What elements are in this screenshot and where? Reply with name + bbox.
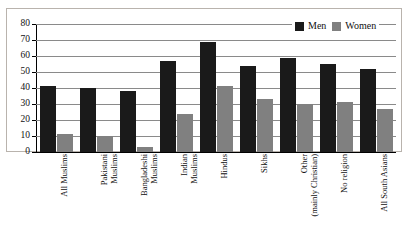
legend-item-women: Women bbox=[332, 21, 376, 31]
y-tick-label: 50 bbox=[4, 67, 30, 77]
x-tick-label: PakistaniMuslims bbox=[100, 154, 119, 246]
y-tick-mark bbox=[32, 40, 36, 41]
bar-women bbox=[137, 147, 153, 152]
bar-women bbox=[377, 109, 393, 152]
y-tick-label: 10 bbox=[4, 131, 30, 141]
x-tick-label: Sikhs bbox=[260, 154, 270, 246]
x-tick-label: Hindus bbox=[220, 154, 230, 246]
bar-women bbox=[257, 99, 273, 152]
x-tick-label: Other(mainly Christian) bbox=[300, 154, 319, 246]
bar-men bbox=[240, 66, 256, 152]
bar-men bbox=[320, 64, 336, 152]
y-tick-label: 60 bbox=[4, 51, 30, 61]
y-tick-mark bbox=[32, 56, 36, 57]
y-tick-label: 30 bbox=[4, 99, 30, 109]
bar-men bbox=[200, 42, 216, 152]
gridline bbox=[36, 56, 396, 57]
legend-item-men: Men bbox=[295, 21, 326, 31]
bar-women bbox=[217, 86, 233, 152]
y-axis-labels: 01020304050607080 bbox=[0, 24, 30, 152]
legend-label-men: Men bbox=[308, 21, 326, 31]
y-tick-mark bbox=[32, 136, 36, 137]
bar-women bbox=[177, 114, 193, 152]
y-tick-label: 70 bbox=[4, 35, 30, 45]
y-tick-mark bbox=[32, 88, 36, 89]
x-axis-labels: All MuslimsPakistaniMuslimsBangladeshiMu… bbox=[36, 154, 396, 246]
bar-women bbox=[337, 102, 353, 152]
y-tick-label: 80 bbox=[4, 19, 30, 29]
bar-men bbox=[80, 88, 96, 152]
x-tick-label: All Muslims bbox=[60, 154, 70, 246]
y-tick-label: 0 bbox=[4, 147, 30, 157]
bar-women bbox=[297, 104, 313, 152]
y-tick-label: 20 bbox=[4, 115, 30, 125]
legend-label-women: Women bbox=[345, 21, 376, 31]
chart-root: 01020304050607080 All MuslimsPakistaniMu… bbox=[0, 0, 410, 246]
bar-women bbox=[57, 134, 73, 152]
bar-men bbox=[360, 69, 376, 152]
plot-area bbox=[36, 24, 396, 152]
legend-swatch-men-icon bbox=[295, 22, 304, 31]
y-tick-mark bbox=[32, 120, 36, 121]
y-tick-mark bbox=[32, 152, 36, 153]
chart-legend: Men Women bbox=[292, 19, 379, 33]
x-tick-label: BangladeshiMuslims bbox=[140, 154, 159, 246]
bar-men bbox=[120, 91, 136, 152]
y-tick-label: 40 bbox=[4, 83, 30, 93]
bar-men bbox=[40, 86, 56, 152]
x-tick-label: All South Asians bbox=[380, 154, 390, 246]
y-tick-mark bbox=[32, 72, 36, 73]
legend-swatch-women-icon bbox=[332, 22, 341, 31]
axis-baseline bbox=[36, 152, 396, 153]
y-tick-mark bbox=[32, 104, 36, 105]
y-tick-mark bbox=[32, 24, 36, 25]
bar-men bbox=[160, 61, 176, 152]
gridline bbox=[36, 40, 396, 41]
bar-men bbox=[280, 58, 296, 152]
x-tick-label: IndianMuslims bbox=[180, 154, 199, 246]
x-tick-label: No religion bbox=[340, 154, 350, 246]
gridline bbox=[36, 72, 396, 73]
bar-women bbox=[97, 136, 113, 152]
